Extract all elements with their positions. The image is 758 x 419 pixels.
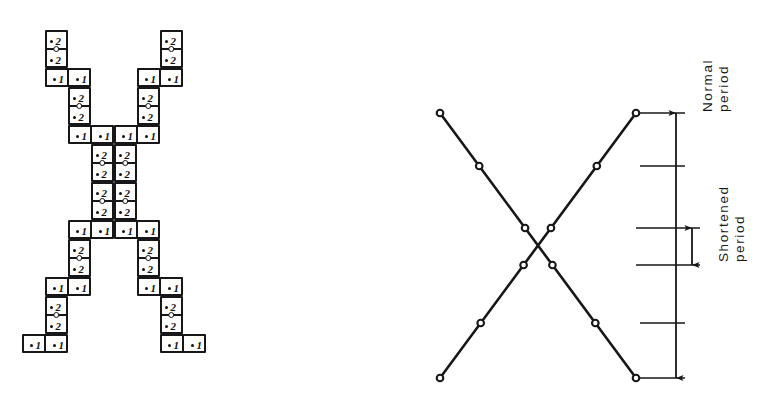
node-circle — [633, 375, 640, 382]
domino-hinge-icon — [122, 198, 128, 204]
domino-cell: 1 — [139, 279, 162, 298]
domino-hinge-icon — [76, 255, 82, 261]
node-circle — [477, 320, 484, 327]
domino-cell: 1 — [162, 336, 185, 355]
domino-pip-icon — [191, 344, 194, 347]
node-circle — [522, 225, 529, 232]
domino-tile: 11 — [160, 334, 206, 353]
domino-tile: 22 — [137, 87, 160, 125]
domino-pip-icon — [142, 97, 145, 100]
domino-cell: 1 — [24, 336, 47, 355]
normal-period-label-line1: Normal — [700, 59, 715, 112]
period-schedule-panel: Normal period Shortened period — [400, 0, 758, 419]
domino-cell-value: 1 — [58, 283, 64, 294]
domino-pip-icon — [165, 306, 168, 309]
node-circle — [476, 163, 483, 170]
domino-tile: 22 — [91, 144, 114, 182]
domino-cell-value: 2 — [124, 169, 130, 180]
domino-pip-icon — [142, 268, 145, 271]
domino-cell-value: 1 — [150, 131, 156, 142]
figure-canvas: 2211221122221122112211221122112222112211… — [0, 0, 758, 419]
domino-hinge-icon — [99, 160, 105, 166]
domino-pip-icon — [73, 268, 76, 271]
domino-cell-value: 1 — [196, 340, 202, 351]
domino-pip-icon — [145, 287, 148, 290]
domino-cell-value: 2 — [55, 321, 61, 332]
domino-pip-icon — [145, 78, 148, 81]
domino-pip-icon — [53, 287, 56, 290]
domino-hinge-icon — [53, 46, 59, 52]
domino-pip-icon — [30, 344, 33, 347]
node-circle — [520, 262, 527, 269]
domino-cell-value: 2 — [101, 207, 107, 218]
dimension-lines-group — [636, 113, 700, 378]
domino-cell-value: 2 — [78, 93, 84, 104]
shortened-period-label-line1: Shortened — [716, 185, 731, 262]
domino-cell-value: 1 — [104, 226, 110, 237]
shortened-period-label-line2: period — [732, 215, 747, 262]
domino-cell-value: 1 — [150, 74, 156, 85]
domino-cell-value: 1 — [81, 131, 87, 142]
normal-period-label: Normal period — [700, 59, 732, 112]
domino-cell-value: 1 — [35, 340, 41, 351]
domino-tile: 22 — [160, 296, 183, 334]
domino-pip-icon — [99, 135, 102, 138]
domino-cell-value: 1 — [173, 340, 179, 351]
domino-tile: 22 — [160, 30, 183, 68]
domino-tile: 11 — [114, 125, 160, 144]
domino-cell-value: 2 — [170, 302, 176, 313]
domino-cell-value: 2 — [147, 93, 153, 104]
domino-pip-icon — [76, 230, 79, 233]
domino-cell-value: 1 — [104, 131, 110, 142]
domino-pip-icon — [96, 211, 99, 214]
domino-cell-value: 2 — [55, 302, 61, 313]
domino-cell-value: 2 — [170, 36, 176, 47]
domino-pip-icon — [73, 116, 76, 119]
domino-pip-icon — [50, 306, 53, 309]
domino-cell-value: 1 — [127, 131, 133, 142]
domino-cell-value: 2 — [101, 188, 107, 199]
domino-cell-value: 2 — [147, 264, 153, 275]
domino-cell-value: 1 — [81, 226, 87, 237]
domino-cell-value: 2 — [78, 112, 84, 123]
node-circle — [437, 110, 444, 117]
domino-cell: 1 — [185, 336, 208, 355]
domino-pip-icon — [168, 344, 171, 347]
domino-cell-value: 2 — [170, 321, 176, 332]
domino-hinge-icon — [53, 312, 59, 318]
domino-cell: 1 — [139, 127, 162, 146]
node-circle — [592, 320, 599, 327]
domino-pip-icon — [145, 230, 148, 233]
domino-pip-icon — [76, 135, 79, 138]
node-circle — [594, 163, 601, 170]
domino-tile: 11 — [45, 277, 91, 296]
domino-hinge-icon — [168, 312, 174, 318]
domino-hinge-icon — [76, 103, 82, 109]
node-circle — [548, 225, 555, 232]
domino-cell-value: 1 — [58, 340, 64, 351]
domino-cell-value: 1 — [150, 283, 156, 294]
domino-tile: 11 — [45, 68, 91, 87]
domino-pip-icon — [96, 154, 99, 157]
domino-tile: 11 — [137, 277, 183, 296]
domino-cell: 1 — [70, 127, 93, 146]
domino-tile: 11 — [114, 220, 160, 239]
domino-tile: 22 — [68, 87, 91, 125]
domino-tile: 22 — [45, 30, 68, 68]
domino-pip-icon — [145, 135, 148, 138]
domino-pip-icon — [119, 211, 122, 214]
domino-tile: 22 — [114, 144, 137, 182]
node-circle — [549, 262, 556, 269]
domino-pip-icon — [168, 78, 171, 81]
domino-pip-icon — [96, 192, 99, 195]
domino-cell-value: 1 — [173, 74, 179, 85]
domino-pip-icon — [96, 173, 99, 176]
shortened-period-label: Shortened period — [716, 185, 748, 262]
domino-cell-value: 2 — [147, 245, 153, 256]
domino-cell-value: 1 — [81, 74, 87, 85]
node-circle — [633, 110, 640, 117]
domino-pip-icon — [165, 40, 168, 43]
domino-cell-value: 2 — [124, 150, 130, 161]
domino-cell-value: 1 — [58, 74, 64, 85]
domino-pip-icon — [119, 173, 122, 176]
